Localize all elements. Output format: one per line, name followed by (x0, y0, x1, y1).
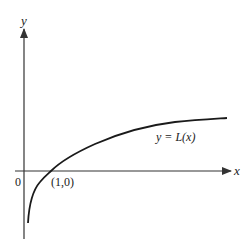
graph-canvas: y x 0 (1,0) y = L(x) (0, 0, 249, 251)
function-label: y = L(x) (155, 130, 195, 144)
y-axis-label: y (19, 13, 27, 28)
origin-label: 0 (15, 175, 21, 189)
point-label-1-0: (1,0) (51, 175, 74, 189)
x-axis-label: x (233, 163, 240, 178)
